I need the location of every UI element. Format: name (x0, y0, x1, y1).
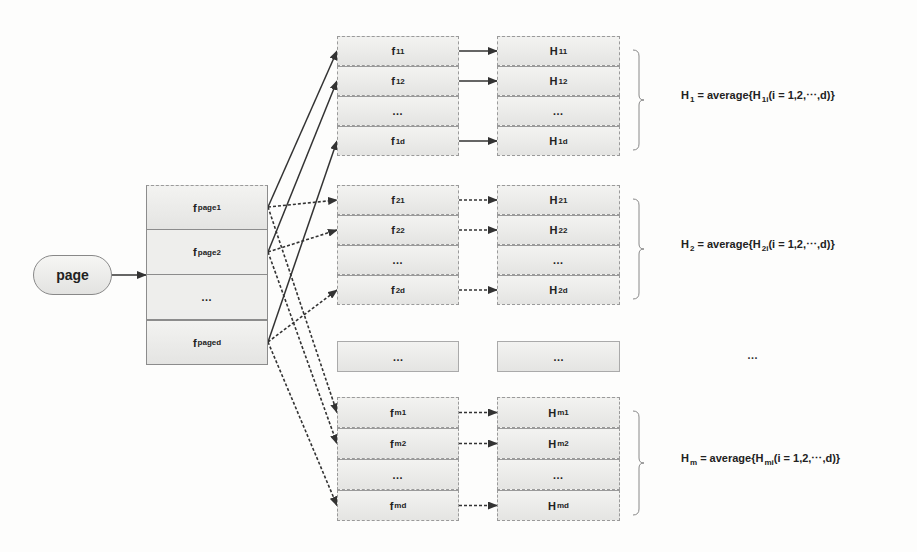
histogram-cell: H12 (497, 66, 620, 96)
page-feature-cell: … (146, 275, 268, 320)
group-brace (633, 199, 644, 299)
feature-cell: f2d (337, 275, 459, 305)
feature-cell: f22 (337, 215, 459, 245)
histogram-cell: H2d (497, 275, 620, 305)
feature-split-arrow (268, 51, 337, 207)
ellipsis-f-box: … (337, 341, 459, 372)
histogram-cell: … (497, 245, 620, 275)
feature-cell: fm2 (337, 428, 459, 459)
feature-cell: … (337, 245, 459, 275)
page-feature-cell: fpaged (146, 320, 268, 365)
feature-cell: … (337, 459, 459, 490)
feature-cell: f1d (337, 126, 459, 156)
feature-split-arrow (268, 230, 337, 252)
group-brace (633, 50, 644, 150)
ellipsis-h-box: … (497, 341, 620, 372)
group-brace (633, 411, 644, 515)
histogram-cell: … (497, 96, 620, 126)
page-feature-cell: fpage1 (146, 185, 268, 230)
feature-split-arrow (268, 81, 337, 252)
histogram-cell: H21 (497, 185, 620, 215)
feature-split-arrow (268, 200, 337, 207)
page-feature-cell: fpage2 (146, 230, 268, 275)
feature-cell: fmd (337, 490, 459, 521)
feature-cell: f21 (337, 185, 459, 215)
feature-split-arrow (268, 290, 337, 342)
histogram-cell: H1d (497, 126, 620, 156)
feature-cell: f12 (337, 66, 459, 96)
feature-cell: … (337, 96, 459, 126)
histogram-cell: H11 (497, 36, 620, 66)
feature-split-arrow (268, 252, 337, 444)
group-formula: Hm = average{Hmi(i = 1,2,⋯,d)} (681, 452, 840, 467)
feature-split-arrow (268, 342, 337, 506)
histogram-cell: Hm1 (497, 397, 620, 428)
feature-cell: fm1 (337, 397, 459, 428)
histogram-cell: Hm2 (497, 428, 620, 459)
group-formula: H2 = average{H2i(i = 1,2,⋯,d)} (681, 238, 835, 253)
histogram-cell: … (497, 459, 620, 490)
group-formula: H1 = average{H1i(i = 1,2,⋯,d)} (681, 89, 835, 104)
page-node: page (33, 255, 112, 295)
histogram-cell: H22 (497, 215, 620, 245)
ellipsis-formula: … (747, 349, 758, 361)
histogram-cell: Hmd (497, 490, 620, 521)
feature-cell: f11 (337, 36, 459, 66)
